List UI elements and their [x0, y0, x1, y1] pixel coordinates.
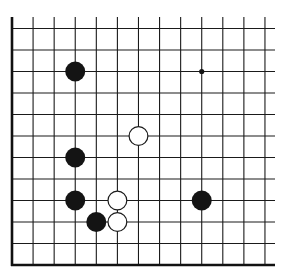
white-stone	[129, 127, 148, 146]
black-stone	[86, 212, 106, 232]
white-stone	[108, 191, 127, 210]
black-stone	[65, 191, 85, 211]
star-point-marker	[199, 69, 204, 74]
markers	[199, 69, 204, 74]
black-stone	[65, 148, 85, 168]
black-stone	[192, 191, 212, 211]
black-stone	[65, 62, 85, 82]
white-stone	[108, 213, 127, 232]
go-board	[0, 0, 285, 277]
